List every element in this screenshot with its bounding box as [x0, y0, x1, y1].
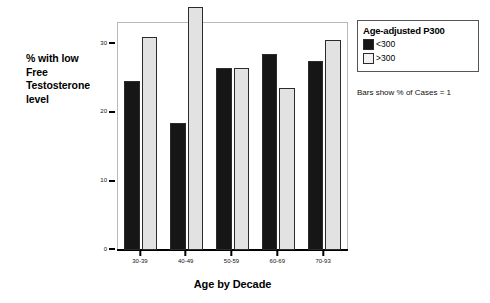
x-tick-50-59: 50-59 — [224, 250, 239, 264]
legend: Age-adjusted P300 <300 >300 — [357, 20, 479, 72]
bar-group — [216, 23, 249, 250]
x-tick-40-49: 40-49 — [178, 250, 193, 264]
bar — [234, 68, 250, 250]
bar — [142, 37, 158, 250]
y-tick-20: 20 — [100, 108, 115, 114]
bar — [124, 81, 140, 250]
x-axis-title: Age by Decade — [117, 278, 348, 290]
x-tick-60-69: 60-69 — [270, 250, 285, 264]
legend-item-label: >300 — [376, 52, 395, 65]
y-axis-ticks: 0102030 — [86, 0, 115, 303]
bar — [279, 88, 295, 250]
bar — [325, 40, 341, 250]
bar — [216, 68, 232, 250]
bar — [188, 7, 204, 250]
x-tick-30-39: 30-39 — [132, 250, 147, 264]
legend-swatch-dark-icon — [363, 39, 374, 50]
bar-group — [262, 23, 295, 250]
bar-group — [170, 23, 203, 250]
bar-group — [124, 23, 157, 250]
legend-swatch-light-icon — [363, 53, 374, 64]
bar-group — [308, 23, 341, 250]
plot-area — [117, 22, 348, 250]
chart-caption: Bars show % of Cases = 1 — [357, 88, 485, 97]
bar — [170, 123, 186, 250]
bar — [262, 54, 278, 250]
x-axis-ticks: 30-3940-4950-5960-6970-93 — [117, 250, 348, 274]
bar-groups — [118, 23, 347, 250]
x-tick-70-93: 70-93 — [315, 250, 330, 264]
bar — [308, 61, 324, 250]
legend-item-label: <300 — [376, 38, 395, 51]
y-tick-30: 30 — [100, 40, 115, 46]
legend-title: Age-adjusted P300 — [363, 25, 445, 36]
y-tick-0: 0 — [104, 246, 115, 252]
y-tick-10: 10 — [100, 177, 115, 183]
